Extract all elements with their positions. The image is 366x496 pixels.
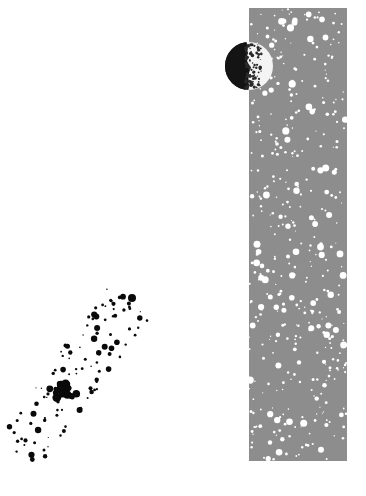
speckle [342, 339, 344, 341]
speckle [281, 19, 286, 24]
speckle [255, 131, 257, 133]
speckle [267, 411, 273, 417]
speckle [270, 214, 271, 215]
speckle [326, 380, 327, 381]
speckle [295, 343, 297, 345]
ink-dot [62, 429, 66, 433]
speckle [252, 215, 254, 217]
speckle [322, 101, 325, 104]
speckle [293, 249, 300, 256]
speckle [326, 316, 327, 317]
moon-crater [247, 84, 250, 87]
speckle [306, 138, 309, 141]
speckle [249, 348, 251, 350]
speckle [286, 124, 288, 126]
ink-dot [56, 409, 59, 412]
speckle [343, 367, 344, 368]
speckle [292, 18, 297, 23]
ink-dot [68, 373, 70, 375]
speckle [338, 31, 340, 33]
ink-dot [43, 419, 46, 422]
speckle [299, 336, 301, 338]
speckle [327, 269, 329, 271]
speckle [287, 371, 289, 373]
speckle [329, 342, 331, 344]
moon-crater [259, 67, 262, 70]
speckle [325, 77, 327, 79]
speckle [292, 156, 293, 157]
speckle [335, 99, 336, 100]
speckle [318, 11, 320, 13]
speckle [272, 212, 275, 215]
moon-crater [251, 85, 252, 86]
ink-dot [13, 431, 16, 434]
speckle [289, 239, 291, 241]
speckle [289, 206, 291, 208]
speckle [325, 259, 327, 261]
speckle [316, 378, 318, 380]
speckle [333, 327, 339, 333]
speckle [311, 312, 313, 314]
moon-crater [258, 72, 260, 74]
speckle [317, 244, 324, 251]
speckle [306, 19, 308, 21]
speckle [342, 426, 345, 429]
speckle [310, 261, 311, 262]
speckle [297, 186, 299, 188]
speckle [276, 82, 279, 85]
speckle [335, 242, 336, 243]
speckle [290, 116, 294, 120]
ink-dot [35, 387, 36, 388]
speckle [250, 300, 253, 303]
speckle [301, 150, 303, 152]
speckle [336, 222, 338, 224]
speckle [326, 290, 329, 293]
ink-dot [86, 324, 88, 326]
speckle [338, 284, 340, 286]
moon-crater [252, 62, 254, 64]
speckle [268, 440, 272, 444]
speckle [334, 110, 337, 113]
speckle [338, 294, 340, 296]
speckle [267, 383, 270, 386]
ink-dot [60, 351, 62, 353]
speckle [321, 208, 323, 210]
moon-crater [260, 70, 261, 71]
speckle [316, 413, 317, 414]
speckle [285, 453, 288, 456]
moon-crater [260, 59, 261, 60]
ink-dot [113, 308, 115, 310]
speckle [313, 108, 316, 111]
speckle [260, 14, 261, 15]
ink-dot [137, 327, 139, 329]
speckle [306, 12, 312, 18]
ink-dot [16, 440, 19, 443]
speckle [318, 447, 324, 453]
ink-dot [62, 368, 65, 371]
ink-dot [102, 344, 108, 350]
ink-dot [89, 386, 93, 390]
speckle [276, 137, 278, 139]
speckle [315, 254, 317, 256]
speckle [330, 347, 332, 349]
ink-dot [106, 289, 108, 291]
speckle [280, 437, 284, 441]
speckle [255, 316, 257, 318]
speckle [263, 192, 270, 199]
ink-dot [30, 457, 35, 462]
speckle [251, 152, 253, 154]
ink-dot [57, 386, 65, 394]
moon-crater [252, 72, 254, 74]
speckle [274, 49, 276, 51]
speckle [344, 364, 347, 367]
speckle [276, 197, 278, 199]
moon-crater [245, 76, 247, 78]
moon-crater [251, 83, 254, 86]
speckle [303, 312, 306, 315]
speckle [281, 308, 286, 313]
speckle [270, 226, 272, 228]
speckle [253, 100, 255, 102]
speckle [331, 325, 332, 326]
ink-dot [120, 294, 126, 300]
speckle [260, 139, 262, 141]
